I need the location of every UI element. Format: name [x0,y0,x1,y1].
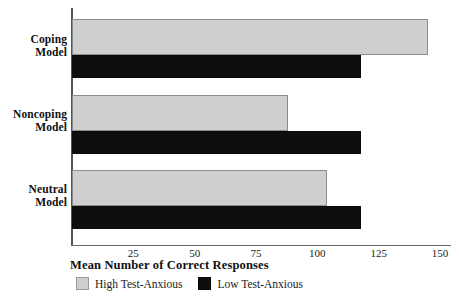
category-label-neutral-line2: Model [0,196,67,209]
bar-noncoping-high-test-anxious [72,95,288,131]
bar-neutral-high-test-anxious [72,170,327,206]
bar-noncoping-low-test-anxious [72,131,361,154]
x-tick-label-100: 100 [297,247,337,259]
legend-entry-low-test-anxious: Low Test-Anxious [198,277,303,290]
x-tick-label-125: 125 [359,247,399,259]
bar-neutral-low-test-anxious [72,206,361,229]
category-label-noncoping-line1: Noncoping [13,108,67,120]
high-swatch-icon [76,277,89,290]
x-axis-title: Mean Number of Correct Responses [70,258,269,273]
bar-coping-high-test-anxious [72,19,428,55]
category-label-coping: Coping Model [0,33,67,58]
x-tick-label-150: 150 [420,247,459,259]
category-label-noncoping-line2: Model [0,121,67,134]
legend-label-high-test-anxious: High Test-Anxious [95,278,182,290]
legend-label-low-test-anxious: Low Test-Anxious [217,278,303,290]
category-label-neutral-line1: Neutral [29,183,67,195]
category-label-coping-line2: Model [0,46,67,59]
bar-coping-low-test-anxious [72,55,361,78]
category-label-neutral: Neutral Model [0,183,67,208]
low-swatch-icon [198,277,211,290]
category-label-coping-line1: Coping [31,33,67,45]
category-label-noncoping: Noncoping Model [0,108,67,133]
bar-chart: Coping Model Noncoping Model Neutral Mod… [0,0,459,299]
chart-legend: High Test-Anxious Low Test-Anxious [76,277,303,290]
legend-entry-high-test-anxious: High Test-Anxious [76,277,182,290]
